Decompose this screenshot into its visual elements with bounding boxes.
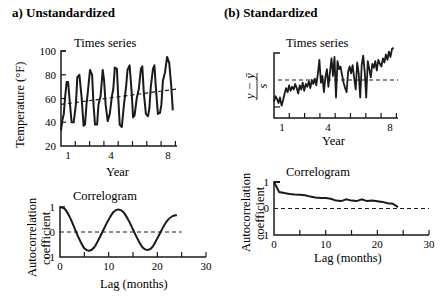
panel-b-title: (b) Standardized — [224, 5, 318, 20]
right-timeseries-xlabel: Year — [322, 134, 346, 148]
right-timeseries-title: Times series — [286, 36, 349, 50]
ytick-label: 80 — [45, 69, 57, 81]
xtick-label: 30 — [424, 238, 436, 250]
right-correlogram-xlabel: Lag (months) — [314, 251, 382, 265]
ytick-label: −1 — [257, 229, 269, 241]
right-timeseries-ylabel: y − ȳ s — [243, 73, 270, 101]
ytick-label: 1 — [264, 176, 270, 188]
left-timeseries-line — [61, 57, 173, 131]
ytick-label: 40 — [45, 116, 57, 128]
left-correlogram-line — [60, 207, 177, 251]
left-correlogram-chart: Correlogram Autocorrelation coefficient … — [25, 189, 212, 291]
xtick-label: 10 — [103, 260, 115, 272]
ytick-label: 0 — [50, 226, 56, 238]
ylabel-denominator: s — [256, 83, 270, 88]
left-timeseries-chart: Times series Temperature (°F) 1008060402… — [13, 36, 177, 179]
xtick-label: 0 — [271, 238, 277, 250]
xtick-label: 0 — [57, 260, 63, 272]
ytick-label: 20 — [45, 140, 57, 152]
xtick-label: 30 — [201, 260, 213, 272]
ytick-label: −1 — [43, 251, 55, 263]
figure: a) Unstandardized (b) Standardized Times… — [0, 0, 445, 302]
right-correlogram-chart: Correlogram Autocorrelation coefficient … — [239, 165, 435, 265]
left-timeseries-xlabel: Year — [106, 165, 130, 179]
xtick-label: 20 — [372, 238, 384, 250]
xtick-label: 4 — [108, 149, 114, 161]
xtick-label: 20 — [152, 260, 164, 272]
left-correlogram-ylabel-1: Autocorrelation — [25, 197, 39, 277]
panel-a-title: a) Unstandardized — [12, 5, 116, 20]
left-timeseries-ylabel: Temperature (°F) — [13, 62, 27, 148]
ylabel-numerator: y − ȳ — [243, 73, 257, 101]
xtick-label: 10 — [320, 238, 332, 250]
xtick-label: 1 — [65, 149, 71, 161]
ytick-label: 60 — [45, 93, 57, 105]
right-correlogram-axes: 10−10102030 — [257, 176, 435, 250]
right-correlogram-ylabel-1: Autocorrelation — [239, 172, 253, 252]
xtick-label: 8 — [387, 121, 393, 133]
xtick-label: 1 — [279, 121, 285, 133]
left-correlogram-title: Correlogram — [73, 189, 137, 203]
xtick-label: 8 — [165, 149, 171, 161]
ytick-label: 0 — [264, 202, 270, 214]
left-correlogram-xlabel: Lag (months) — [100, 277, 168, 291]
xtick-label: 4 — [325, 121, 331, 133]
right-correlogram-line — [274, 182, 398, 207]
left-correlogram-axes: 10−10102030 — [43, 201, 212, 272]
right-timeseries-chart: Times series y − ȳ s 148 Year — [243, 36, 398, 148]
ytick-label: 1 — [50, 201, 56, 213]
right-timeseries-line — [274, 48, 394, 106]
left-timeseries-title: Times series — [74, 36, 137, 50]
ytick-label: 100 — [40, 45, 57, 57]
right-correlogram-title: Correlogram — [286, 165, 350, 179]
